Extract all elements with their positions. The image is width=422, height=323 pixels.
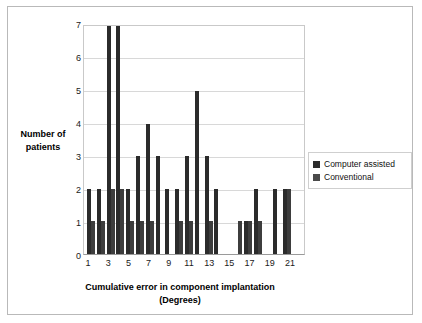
bar-category-8 [155, 26, 165, 254]
bar-conventional-11 [189, 221, 193, 254]
bar-category-13 [204, 26, 214, 254]
bar-computer-assisted-20 [273, 189, 277, 254]
x-tick-slot-22 [295, 258, 305, 272]
x-tick-19: 19 [265, 258, 275, 268]
y-tick-2: 2 [55, 185, 81, 195]
x-tick-5: 5 [126, 258, 131, 268]
x-tick-slot-17: 17 [245, 258, 255, 272]
x-tick-slot-12 [194, 258, 204, 272]
y-tick-3: 3 [55, 152, 81, 162]
bar-computer-assisted-9 [165, 189, 169, 254]
x-tick-slot-8 [154, 258, 164, 272]
x-axis-label-line1: Cumulative error in component implantati… [40, 281, 320, 294]
bar-computer-assisted-14 [214, 189, 218, 254]
bar-conventional-7 [150, 221, 154, 254]
x-tick-17: 17 [245, 258, 255, 268]
y-tick-4: 4 [55, 119, 81, 129]
bar-category-7 [145, 26, 155, 254]
bar-category-14 [214, 26, 224, 254]
x-tick-15: 15 [224, 258, 234, 268]
x-tick-slot-21: 21 [285, 258, 295, 272]
legend-label-conventional: Conventional [324, 171, 374, 183]
bar-conventional-10 [179, 221, 183, 254]
y-axis-ticks: 7 6 5 4 3 2 1 0 [55, 18, 81, 262]
x-tick-slot-2 [93, 258, 103, 272]
bar-conventional-17 [248, 221, 252, 254]
x-tick-1: 1 [86, 258, 91, 268]
bar-category-22 [292, 26, 302, 254]
bar-conventional-21 [287, 189, 291, 254]
x-axis-ticks: 13579111315171921 [83, 258, 305, 272]
legend-swatch-conventional-icon [313, 174, 320, 181]
x-tick-13: 13 [204, 258, 214, 268]
bar-conventional-16 [238, 221, 242, 254]
x-tick-slot-15: 15 [224, 258, 234, 272]
x-tick-slot-6 [133, 258, 143, 272]
x-tick-slot-14 [214, 258, 224, 272]
bar-category-19 [263, 26, 273, 254]
legend-label-computer-assisted: Computer assisted [324, 158, 395, 170]
legend-item-conventional: Conventional [313, 171, 407, 183]
bar-category-17 [243, 26, 253, 254]
x-tick-slot-9: 9 [164, 258, 174, 272]
x-axis-label: Cumulative error in component implantati… [40, 281, 320, 307]
x-tick-slot-20 [275, 258, 285, 272]
legend-swatch-computer-assisted-icon [313, 161, 320, 168]
x-tick-7: 7 [146, 258, 151, 268]
bar-conventional-3 [111, 189, 115, 254]
bar-category-21 [282, 26, 292, 254]
bar-conventional-6 [140, 221, 144, 254]
bar-category-4 [115, 26, 125, 254]
bar-category-6 [135, 26, 145, 254]
x-tick-9: 9 [166, 258, 171, 268]
bar-category-5 [125, 26, 135, 254]
x-tick-slot-1: 1 [83, 258, 93, 272]
bar-conventional-13 [209, 221, 213, 254]
bar-conventional-1 [91, 221, 95, 254]
bar-computer-assisted-8 [156, 156, 160, 254]
bar-category-10 [174, 26, 184, 254]
bar-category-12 [194, 26, 204, 254]
x-tick-slot-5: 5 [123, 258, 133, 272]
x-axis-label-line2: (Degrees) [40, 294, 320, 307]
chart-legend: Computer assisted Conventional [308, 152, 412, 189]
x-tick-slot-16 [234, 258, 244, 272]
bar-group [84, 26, 304, 254]
bar-category-3 [106, 26, 116, 254]
x-tick-slot-11: 11 [184, 258, 194, 272]
y-tick-6: 6 [55, 53, 81, 63]
bar-category-18 [253, 26, 263, 254]
x-tick-21: 21 [285, 258, 295, 268]
x-tick-slot-4 [113, 258, 123, 272]
y-tick-0: 0 [55, 251, 81, 261]
bar-category-1 [86, 26, 96, 254]
bar-conventional-2 [101, 221, 105, 254]
x-tick-slot-19: 19 [265, 258, 275, 272]
bar-category-11 [184, 26, 194, 254]
legend-item-computer-assisted: Computer assisted [313, 158, 407, 170]
bar-category-20 [272, 26, 282, 254]
bar-category-2 [96, 26, 106, 254]
bar-conventional-18 [258, 221, 262, 254]
y-tick-5: 5 [55, 86, 81, 96]
x-tick-11: 11 [184, 258, 193, 268]
y-tick-7: 7 [55, 20, 81, 30]
bar-conventional-4 [120, 189, 124, 254]
x-tick-slot-18 [255, 258, 265, 272]
y-tick-1: 1 [55, 218, 81, 228]
bar-category-15 [223, 26, 233, 254]
figure-container: Number of patients 7 6 5 4 3 2 1 0 13579… [0, 0, 422, 323]
x-tick-slot-7: 7 [144, 258, 154, 272]
x-tick-slot-13: 13 [204, 258, 214, 272]
bar-category-9 [165, 26, 175, 254]
bar-category-16 [233, 26, 243, 254]
plot-area [83, 25, 305, 255]
x-tick-slot-3: 3 [103, 258, 113, 272]
x-tick-slot-10 [174, 258, 184, 272]
x-tick-3: 3 [106, 258, 111, 268]
bar-conventional-5 [130, 221, 134, 254]
bar-computer-assisted-12 [195, 91, 199, 254]
